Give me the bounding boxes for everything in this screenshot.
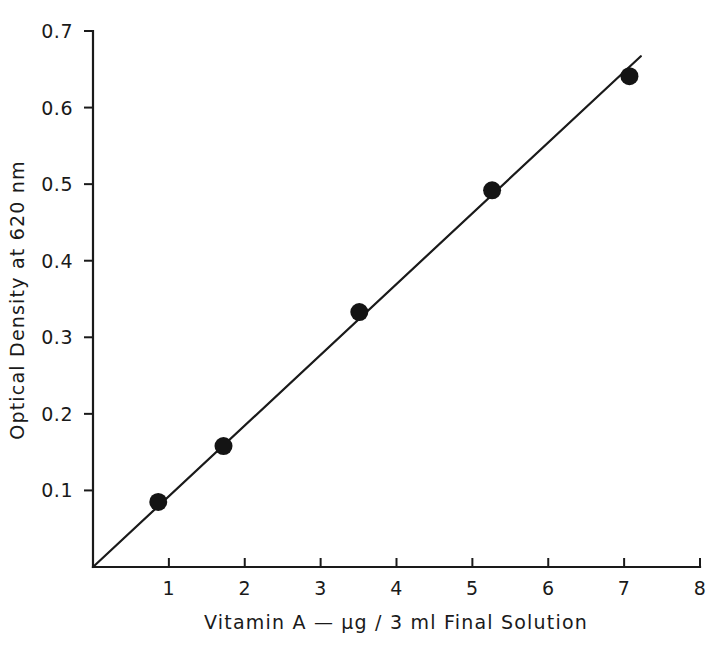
y-axis-title: Optical Density at 620 nm: [6, 160, 28, 439]
chart-figure: 0.10.20.30.40.50.60.7 12345678 Vitamin A…: [0, 0, 716, 651]
data-point: [149, 493, 167, 511]
data-points: [149, 67, 638, 511]
y-tick-label: 0.1: [41, 479, 73, 501]
x-tick-label: 4: [390, 577, 403, 599]
y-tick-label: 0.5: [41, 173, 73, 195]
scatter-plot: 0.10.20.30.40.50.60.7 12345678 Vitamin A…: [0, 0, 716, 651]
x-tick-label: 6: [542, 577, 555, 599]
x-tick-label: 7: [618, 577, 631, 599]
x-tick-label: 1: [163, 577, 176, 599]
x-axis-title: Vitamin A — µg / 3 ml Final Solution: [204, 611, 588, 633]
y-tick-label: 0.2: [41, 403, 73, 425]
data-point: [215, 437, 233, 455]
x-tick-label: 3: [314, 577, 327, 599]
y-tick-label: 0.6: [41, 97, 73, 119]
x-tick-label: 2: [238, 577, 251, 599]
data-point: [483, 181, 501, 199]
y-tick-label: 0.7: [41, 20, 73, 42]
x-axis-ticks: 12345678: [163, 558, 707, 599]
data-point: [350, 303, 368, 321]
x-tick-label: 8: [694, 577, 707, 599]
x-tick-label: 5: [466, 577, 479, 599]
data-point: [620, 67, 638, 85]
y-tick-label: 0.3: [41, 326, 73, 348]
y-axis-ticks: 0.10.20.30.40.50.60.7: [41, 20, 93, 501]
y-tick-label: 0.4: [41, 250, 73, 272]
